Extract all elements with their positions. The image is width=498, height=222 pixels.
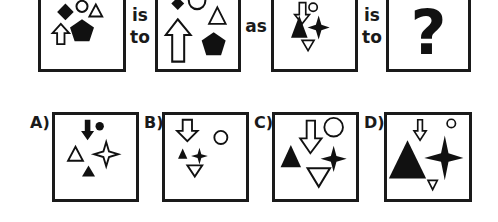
black-triangle-large-icon [389, 140, 426, 178]
connector-is-1: is [130, 5, 150, 25]
black-four-point-star-icon [191, 148, 208, 165]
option-a-label: A) [30, 113, 50, 132]
connector-is-2: is [362, 5, 382, 25]
black-triangle-icon [82, 165, 95, 176]
figure-4-answer-box: ? [386, 0, 471, 72]
figure-3-shapes [274, 0, 355, 69]
white-down-arrow-large-icon [300, 121, 321, 154]
option-b-label: B) [144, 113, 164, 132]
white-down-triangle-icon [187, 165, 202, 176]
black-diamond-icon [171, 0, 184, 10]
white-down-triangle-icon [302, 40, 314, 50]
black-pentagon-icon [202, 32, 226, 55]
white-circle-icon [189, 0, 206, 9]
white-circle-icon [214, 131, 227, 144]
white-circle-icon [309, 3, 317, 11]
figure-2-box [155, 0, 241, 72]
option-d-shapes [387, 115, 469, 199]
black-diamond-icon [57, 4, 74, 21]
white-triangle-icon [68, 147, 83, 161]
option-a-box[interactable] [52, 112, 139, 202]
white-down-triangle-large-icon [308, 168, 330, 187]
black-four-point-star-large-icon [424, 136, 463, 181]
option-c-shapes [275, 115, 356, 199]
option-b-shapes [165, 115, 246, 199]
figure-1-box [38, 0, 126, 72]
option-d-box[interactable] [384, 112, 472, 202]
option-a-shapes [55, 115, 136, 199]
figure-1-shapes [41, 0, 123, 69]
white-circle-icon [324, 118, 343, 137]
figure-2-shapes [158, 0, 238, 69]
white-down-arrow-icon [177, 120, 197, 141]
white-down-arrow-icon [295, 3, 310, 24]
black-down-arrow-icon [81, 120, 94, 140]
connector-to-1: to [130, 27, 150, 47]
white-circle-icon [76, 1, 87, 12]
white-triangle-icon [209, 7, 226, 24]
option-c-label: C) [254, 113, 273, 132]
white-down-arrow-icon [414, 120, 426, 140]
black-triangle-icon [281, 145, 301, 167]
white-circle-small-icon [447, 119, 455, 127]
white-up-arrow-large-icon [166, 19, 191, 61]
black-pentagon-icon [70, 19, 94, 41]
black-circle-icon [96, 122, 104, 130]
white-triangle-icon [89, 5, 102, 17]
connector-to-2: to [362, 27, 382, 47]
question-mark-icon: ? [389, 1, 468, 65]
white-four-point-star-icon [94, 142, 118, 166]
option-c-box[interactable] [272, 112, 359, 202]
option-b-box[interactable] [162, 112, 249, 202]
white-down-triangle-small-icon [428, 180, 437, 189]
black-four-point-star-icon [308, 16, 330, 40]
option-d-label: D) [364, 113, 385, 132]
black-triangle-icon [178, 149, 187, 159]
connector-as: as [243, 16, 269, 36]
figure-3-box [271, 0, 358, 72]
white-up-arrow-icon [53, 24, 70, 44]
